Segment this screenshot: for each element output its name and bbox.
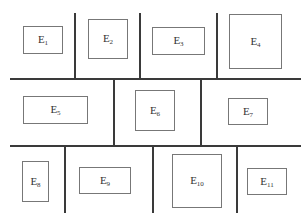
row2-divider-a bbox=[113, 78, 115, 146]
element-box-e6: E6 bbox=[135, 90, 175, 131]
element-box-e8: E8 bbox=[22, 161, 49, 202]
element-index: 4 bbox=[257, 41, 261, 49]
element-label: E bbox=[100, 174, 107, 186]
element-box-e3: E3 bbox=[152, 27, 205, 55]
element-label: E bbox=[38, 33, 45, 45]
element-index: 10 bbox=[197, 180, 204, 188]
element-box-e7: E7 bbox=[228, 98, 268, 125]
element-index: 8 bbox=[37, 181, 41, 189]
element-box-e11: E11 bbox=[247, 168, 287, 195]
element-index: 2 bbox=[110, 38, 114, 46]
element-index: 11 bbox=[267, 181, 274, 189]
element-box-e2: E2 bbox=[88, 19, 128, 59]
element-box-e10: E10 bbox=[172, 154, 222, 208]
element-index: 6 bbox=[157, 110, 161, 118]
element-box-e5: E5 bbox=[23, 96, 88, 124]
row2-divider-b bbox=[200, 78, 202, 146]
row1-divider-a bbox=[74, 13, 76, 79]
element-box-e4: E4 bbox=[229, 14, 282, 69]
element-index: 1 bbox=[45, 39, 49, 47]
row3-divider-a bbox=[64, 145, 66, 213]
element-label: E bbox=[243, 105, 250, 117]
row3-divider-c bbox=[236, 145, 238, 213]
element-label: E bbox=[150, 104, 157, 116]
row1-divider-c bbox=[216, 13, 218, 79]
row-divider-1 bbox=[10, 78, 301, 80]
element-label: E bbox=[260, 175, 267, 187]
element-index: 5 bbox=[57, 109, 61, 117]
element-label: E bbox=[190, 174, 197, 186]
element-label: E bbox=[103, 32, 110, 44]
element-index: 9 bbox=[107, 180, 111, 188]
element-box-e9: E9 bbox=[79, 167, 131, 194]
row-divider-2 bbox=[10, 145, 301, 147]
element-index: 7 bbox=[250, 111, 254, 119]
row3-divider-b bbox=[152, 145, 154, 213]
partition-diagram: E1 E2 E3 E4 E5 E6 E7 E8 E9 E10 E11 bbox=[0, 0, 301, 222]
row1-divider-b bbox=[139, 13, 141, 79]
element-index: 3 bbox=[180, 40, 184, 48]
element-box-e1: E1 bbox=[23, 26, 63, 54]
